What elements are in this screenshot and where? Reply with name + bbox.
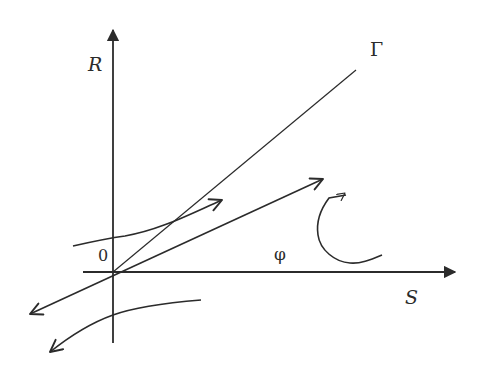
upper-curved-arrow (73, 200, 222, 246)
lower-curved-arrow (50, 300, 201, 352)
s-axis-label: S (405, 288, 418, 307)
r-axis-label: R (88, 55, 102, 74)
gamma-label: Γ (370, 40, 383, 59)
angle-label: φ (274, 246, 286, 263)
hook-arrowhead (318, 193, 345, 235)
phase-diagram (0, 0, 479, 375)
hook-curved-arrow (317, 195, 382, 263)
origin-label: 0 (98, 248, 108, 264)
